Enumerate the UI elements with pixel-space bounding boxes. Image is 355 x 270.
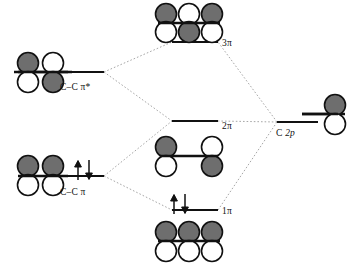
orbital-cartoon-1pi [156,222,223,262]
orbital-cartoon-c-2p [302,95,346,135]
correlation-c2p-3pi [218,42,277,122]
c2p-lobe-bottom-empty [325,114,346,135]
ccpi-lobe-top-left-filled [18,156,39,177]
1pi-lobe-top-middle-filled [179,222,200,243]
2pi-lobe-top-left-filled [156,137,177,158]
2pi-lobe-bottom-right-filled [202,156,223,177]
3pi-lobe-bottom-middle-filled [179,22,200,43]
2pi-lobe-bottom-left-empty [156,156,177,177]
level-label-cc-pi-star: C–C π* [60,82,91,92]
c2p-orbital-symbol: 2p [285,128,295,138]
spin-up-head-1pi [171,195,178,202]
energy-level-bars [63,42,318,210]
1pi-lobe-top-right-filled [202,222,223,243]
3pi-lobe-bottom-left-empty [156,22,177,43]
correlation-ccpistar-2pi [104,72,172,121]
1pi-lobe-top-left-filled [156,222,177,243]
orbital-cartoon-3pi [156,4,223,43]
level-label-cc-pi: C–C π [60,187,86,197]
ccpistar-lobe-top-right-empty [43,53,64,74]
ccpistar-lobe-top-left-filled [18,53,39,74]
1pi-lobe-bottom-left-empty [156,241,177,262]
diagram-canvas [0,0,355,270]
correlation-c2p-1pi [218,122,277,210]
ccpistar-lobe-bottom-left-empty [18,72,39,93]
1pi-lobe-bottom-middle-empty [179,241,200,262]
c2p-lobe-top-filled [325,95,346,116]
level-label-2pi: 2π [222,121,232,131]
correlation-lines [104,42,277,210]
2pi-lobe-top-right-empty [202,137,223,158]
level-label-c-2p: C 2p [276,128,295,138]
mo-interaction-diagram: C–C π* C–C π 3π 2π 1π C 2p [0,0,355,270]
1pi-lobe-bottom-right-empty [202,241,223,262]
spin-up-head-cc-pi [75,161,82,168]
correlation-ccpistar-3pi [104,42,172,72]
level-label-3pi: 3π [222,38,232,48]
ccpi-lobe-bottom-left-empty [18,175,39,196]
orbital-cartoon-2pi [156,137,223,177]
ccpi-lobe-top-right-filled [43,156,64,177]
c2p-element-symbol: C [276,128,283,138]
level-label-1pi: 1π [222,206,232,216]
3pi-lobe-bottom-right-empty [202,22,223,43]
correlation-ccpi-1pi [104,176,172,210]
